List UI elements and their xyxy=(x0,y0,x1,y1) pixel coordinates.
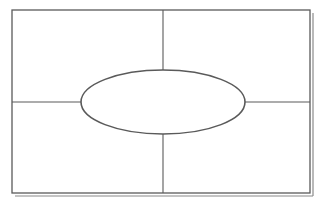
center-oval[interactable] xyxy=(81,70,245,134)
graphic-organizer xyxy=(0,0,324,205)
organizer-drawing xyxy=(0,0,324,205)
